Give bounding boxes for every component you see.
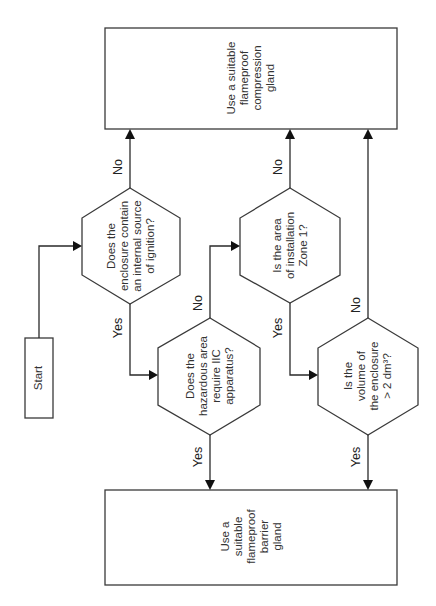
label-line: volume of — [355, 326, 368, 426]
label-line: hazardous area — [197, 326, 210, 426]
arrowhead-icon — [309, 370, 318, 380]
outcome-compression-label: Use a suitable flameproof compression gl… — [225, 28, 277, 128]
label-line: Does the — [105, 191, 118, 301]
arrowhead-icon — [125, 129, 135, 139]
label-line: compression — [251, 28, 264, 128]
label-line: Use a suitable — [225, 28, 238, 128]
label-line: Zone 1? — [297, 196, 310, 296]
label-line: > 2 dm³? — [381, 326, 394, 426]
label-line: an internal source — [131, 191, 144, 301]
connector-q1-yes — [130, 304, 152, 375]
label-line: the enclosure — [368, 326, 381, 426]
edge-label-q1-no: No — [111, 155, 125, 179]
edge-label-q2-no: No — [191, 291, 205, 315]
outcome-barrier-label: Use a suitable flameproof barrier gland — [219, 497, 284, 577]
edge-label-q4-yes: Yes — [349, 443, 363, 471]
decision-q2-label: Does the hazardous area require IIC appa… — [184, 326, 236, 426]
arrowhead-icon — [149, 370, 158, 380]
edge-label-q1-yes: Yes — [111, 314, 125, 342]
decision-q4-label: Is the volume of the enclosure > 2 dm³? — [342, 326, 394, 426]
arrowhead-icon — [231, 241, 240, 251]
start-label: Start — [32, 353, 46, 403]
label-line: of installation — [284, 196, 297, 296]
label-line: require IIC — [210, 326, 223, 426]
label-line: Does the — [184, 326, 197, 426]
label-line: suitable — [232, 497, 245, 577]
label-line: apparatus? — [223, 326, 236, 426]
label-line: of ignition? — [144, 191, 157, 301]
label-line: Is the — [342, 326, 355, 426]
arrowhead-icon — [363, 480, 373, 490]
label-line: flameproof — [245, 497, 258, 577]
label-line: Use a — [219, 497, 232, 577]
arrowhead-icon — [205, 480, 215, 490]
arrowhead-icon — [73, 241, 82, 251]
label-line: Is the area — [271, 196, 284, 296]
start-text: Start — [32, 366, 44, 390]
label-line: gland — [271, 497, 284, 577]
label-line: barrier — [258, 497, 271, 577]
connector-start-q1 — [39, 246, 76, 338]
label-line: gland — [264, 28, 277, 128]
arrowhead-icon — [363, 129, 373, 139]
decision-q1-label: Does the enclosure contain an internal s… — [105, 191, 157, 301]
label-line: flameproof — [238, 28, 251, 128]
decision-q3-label: Is the area of installation Zone 1? — [271, 196, 310, 296]
label-line: enclosure contain — [118, 191, 131, 301]
edge-label-q3-yes: Yes — [271, 314, 285, 342]
edge-label-q3-no: No — [271, 155, 285, 179]
arrowhead-icon — [285, 129, 295, 139]
edge-label-q2-yes: Yes — [191, 443, 205, 471]
connector-q2-no — [210, 246, 234, 318]
connector-q3-yes — [290, 303, 312, 375]
edge-label-q4-no: No — [349, 293, 363, 317]
